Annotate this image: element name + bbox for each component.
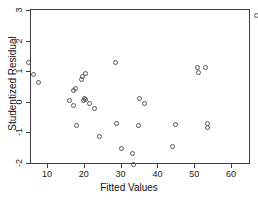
data-point: [195, 65, 200, 70]
data-point: [97, 134, 102, 139]
data-point: [67, 98, 72, 103]
y-tick-label: -2: [14, 157, 24, 169]
scatter-plot: 102030405060 3210-1-2 Fitted Values Stud…: [0, 0, 258, 200]
x-tick-label: 20: [72, 169, 96, 180]
data-point: [203, 65, 208, 70]
data-point: [83, 71, 88, 76]
x-tick-mark: [121, 164, 122, 168]
data-point: [137, 96, 142, 101]
data-point: [136, 123, 141, 128]
y-tick-mark: [26, 10, 30, 11]
data-point: [71, 103, 76, 108]
x-tick-label: 40: [145, 169, 169, 180]
data-point: [173, 122, 178, 127]
data-point: [36, 80, 41, 85]
y-tick-mark: [26, 71, 30, 72]
data-point: [74, 123, 79, 128]
x-tick-mark: [84, 164, 85, 168]
data-point: [26, 60, 31, 65]
x-tick-mark: [157, 164, 158, 168]
data-point: [113, 60, 118, 65]
data-point: [114, 121, 119, 126]
data-point: [196, 70, 201, 75]
x-tick-label: 60: [219, 169, 243, 180]
data-point: [31, 72, 36, 77]
x-tick-mark: [194, 164, 195, 168]
x-tick-mark: [231, 164, 232, 168]
data-points-layer: [30, 9, 250, 164]
y-tick-mark: [26, 132, 30, 133]
data-point: [142, 101, 147, 106]
y-tick-mark: [26, 102, 30, 103]
data-point: [205, 125, 210, 130]
data-point: [131, 162, 136, 167]
x-tick-mark: [47, 164, 48, 168]
data-point: [119, 146, 124, 151]
data-point: [170, 144, 175, 149]
y-tick-label: 3: [14, 4, 24, 16]
y-axis-title: Studentized Residual: [7, 19, 18, 149]
data-point: [130, 151, 135, 156]
x-tick-label: 30: [109, 169, 133, 180]
data-point: [92, 106, 97, 111]
x-axis-title: Fitted Values: [0, 182, 258, 193]
x-tick-label: 10: [35, 169, 59, 180]
y-tick-mark: [26, 163, 30, 164]
data-point: [254, 13, 258, 18]
x-tick-label: 50: [182, 169, 206, 180]
data-point: [87, 101, 92, 106]
data-point: [73, 86, 78, 91]
y-tick-mark: [26, 41, 30, 42]
